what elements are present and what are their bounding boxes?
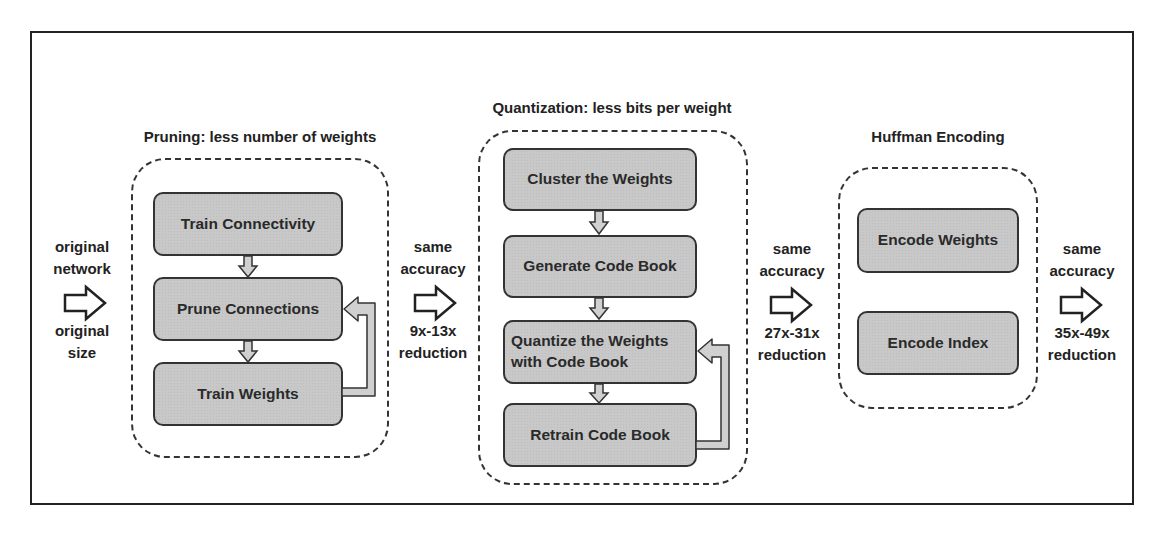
right-arrow-icon xyxy=(770,288,814,324)
label-line: original xyxy=(53,236,111,258)
label-line: same xyxy=(400,236,465,258)
down-arrow-icon xyxy=(589,211,609,235)
step-train-connectivity: Train Connectivity xyxy=(153,192,343,256)
label-line: accuracy xyxy=(759,260,824,282)
label-line: 35x-49x xyxy=(1048,322,1116,344)
label-line: same xyxy=(1049,238,1114,260)
transition-label-bottom: original size xyxy=(55,320,109,364)
transition-label-top: same accuracy xyxy=(1049,238,1114,282)
label-line: reduction xyxy=(1048,344,1116,366)
down-arrow-icon xyxy=(238,256,258,278)
right-arrow-icon xyxy=(64,286,108,322)
label-line: 9x-13x xyxy=(399,320,467,342)
transition-label-top: same accuracy xyxy=(759,238,824,282)
transition-label-bottom: 9x-13x reduction xyxy=(399,320,467,364)
down-arrow-icon xyxy=(589,298,609,320)
transition-label-bottom: 27x-31x reduction xyxy=(758,322,826,366)
step-encode-index: Encode Index xyxy=(857,311,1019,375)
loop-arrow-icon xyxy=(696,342,736,452)
label-line: network xyxy=(53,258,111,280)
down-arrow-icon xyxy=(238,341,258,363)
label-line: accuracy xyxy=(400,258,465,280)
label-line: 27x-31x xyxy=(758,322,826,344)
step-prune-connections: Prune Connections xyxy=(153,277,343,341)
step-cluster-weights: Cluster the Weights xyxy=(503,148,697,211)
step-generate-code-book: Generate Code Book xyxy=(503,235,697,298)
huffman-title: Huffman Encoding xyxy=(871,128,1004,145)
label-line: reduction xyxy=(758,344,826,366)
label-line: accuracy xyxy=(1049,260,1114,282)
transition-label-top: same accuracy xyxy=(400,236,465,280)
label-line: original xyxy=(55,320,109,342)
transition-label-bottom: 35x-49x reduction xyxy=(1048,322,1116,366)
step-train-weights: Train Weights xyxy=(153,362,343,426)
label-line: reduction xyxy=(399,342,467,364)
right-arrow-icon xyxy=(414,286,458,322)
right-arrow-icon xyxy=(1060,288,1104,324)
step-retrain-code-book: Retrain Code Book xyxy=(503,403,697,467)
loop-arrow-icon xyxy=(342,300,382,400)
transition-label-top: original network xyxy=(53,236,111,280)
step-encode-weights: Encode Weights xyxy=(857,208,1019,273)
label-line: same xyxy=(759,238,824,260)
step-quantize-weights: Quantize the Weights with Code Book xyxy=(503,320,697,384)
label-line: size xyxy=(55,342,109,364)
down-arrow-icon xyxy=(589,384,609,404)
quantization-title: Quantization: less bits per weight xyxy=(492,99,731,116)
pruning-title: Pruning: less number of weights xyxy=(144,128,377,145)
